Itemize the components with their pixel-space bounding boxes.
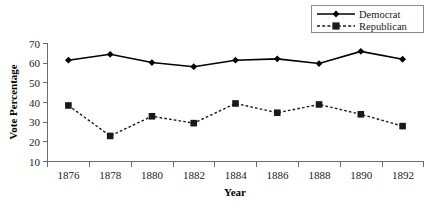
y-tick-label-30: 30 xyxy=(29,116,41,128)
data-point-republican-1880 xyxy=(149,113,156,120)
data-point-democrat-1890 xyxy=(357,48,364,55)
data-point-democrat-1888 xyxy=(316,60,323,67)
data-point-republican-1890 xyxy=(358,111,365,118)
legend-marker-square-icon xyxy=(332,22,339,29)
legend-label-republican: Republican xyxy=(359,21,408,32)
data-point-democrat-1892 xyxy=(399,56,406,63)
data-point-republican-1892 xyxy=(399,123,406,130)
y-tick-label-50: 50 xyxy=(29,77,41,89)
data-point-democrat-1876 xyxy=(65,57,72,64)
x-tick-label-1890: 1890 xyxy=(350,169,373,181)
chart-figure: 70 60 50 40 30 20 10 1876 1878 1880 1882… xyxy=(0,0,434,203)
data-point-republican-1876 xyxy=(65,102,72,109)
series-republican xyxy=(65,100,406,139)
data-point-republican-1888 xyxy=(316,101,323,108)
y-axis-ticks xyxy=(43,44,47,162)
x-tick-label-1886: 1886 xyxy=(267,169,290,181)
data-point-democrat-1878 xyxy=(107,51,114,58)
data-point-republican-1884 xyxy=(232,100,239,107)
data-series-layer xyxy=(65,48,406,139)
y-tick-label-20: 20 xyxy=(29,136,41,148)
x-axis-title: Year xyxy=(224,186,246,198)
x-tick-label-1884: 1884 xyxy=(225,169,248,181)
x-tick-label-1892: 1892 xyxy=(392,169,414,181)
data-point-democrat-1884 xyxy=(232,57,239,64)
chart-legend: Democrat Republican xyxy=(312,6,424,33)
x-tick-label-1878: 1878 xyxy=(99,169,122,181)
data-point-democrat-1882 xyxy=(190,63,197,70)
data-point-republican-1882 xyxy=(190,120,197,127)
data-point-democrat-1880 xyxy=(149,59,156,66)
y-tick-label-40: 40 xyxy=(29,97,41,109)
x-tick-label-1876: 1876 xyxy=(57,169,80,181)
series-democrat xyxy=(65,48,406,70)
y-tick-label-70: 70 xyxy=(29,38,41,50)
legend-label-democrat: Democrat xyxy=(359,9,400,20)
line-chart-canvas: 70 60 50 40 30 20 10 1876 1878 1880 1882… xyxy=(0,0,434,203)
y-tick-label-60: 60 xyxy=(29,57,41,69)
x-tick-label-1880: 1880 xyxy=(141,169,164,181)
y-axis-title: Vote Percentage xyxy=(7,64,19,140)
x-tick-label-1882: 1882 xyxy=(183,169,205,181)
x-tick-label-1888: 1888 xyxy=(309,169,332,181)
series-line-republican xyxy=(68,103,402,135)
data-point-republican-1878 xyxy=(107,133,114,140)
data-point-republican-1886 xyxy=(274,109,281,116)
y-tick-label-10: 10 xyxy=(29,156,41,168)
data-point-democrat-1886 xyxy=(274,55,281,62)
